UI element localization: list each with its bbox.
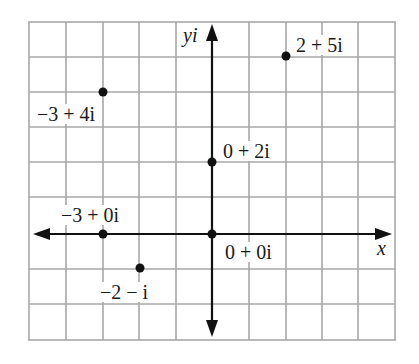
y-axis (206, 24, 218, 337)
arrow-down-icon (206, 320, 218, 337)
point-label: −2 − i (99, 282, 149, 302)
point-neg3-plus-4i (99, 88, 108, 97)
point-label: −3 + 4i (36, 104, 96, 124)
y-axis-label: yi (183, 25, 197, 45)
point-neg2-minus-i (136, 264, 145, 273)
point-label: −3 + 0i (60, 205, 120, 225)
arrow-up-icon (206, 24, 218, 41)
arrow-left-icon (33, 228, 50, 240)
point-0-plus-2i (208, 158, 217, 167)
x-axis-label: x (377, 238, 386, 258)
point-2-plus-5i (282, 52, 291, 61)
point-label: 0 + 2i (222, 141, 271, 161)
point-neg3-plus-0i (99, 230, 108, 239)
point-origin (208, 230, 217, 239)
complex-plane (0, 0, 419, 364)
point-label: 0 + 0i (224, 242, 273, 262)
point-label: 2 + 5i (295, 35, 344, 55)
